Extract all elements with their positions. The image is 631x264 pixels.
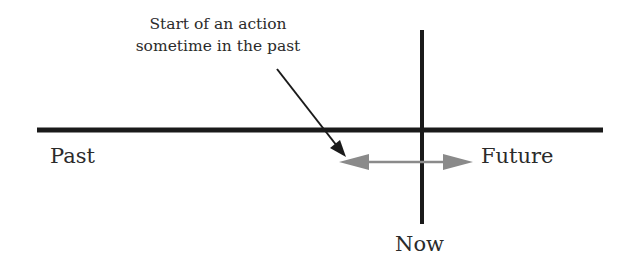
duration-double-arrow-icon [339,154,473,170]
annotation-label: Start of an action sometime in the past [112,13,324,57]
annotation-line-2: sometime in the past [112,35,324,57]
past-label: Past [50,146,95,167]
annotation-line-1: Start of an action [112,13,324,35]
now-label: Now [395,234,444,255]
future-label: Future [481,146,554,167]
pointer-arrow-icon [277,69,346,157]
